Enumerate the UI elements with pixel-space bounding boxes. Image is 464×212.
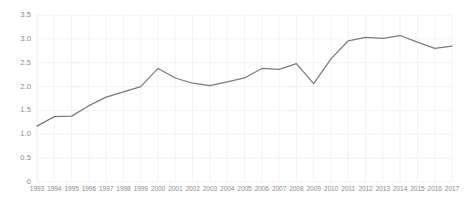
x-tick-label: 2001 — [168, 186, 182, 193]
y-tick-label: 3.0 — [20, 35, 31, 43]
x-tick-label: 2004 — [220, 186, 234, 193]
x-tick-label: 2013 — [376, 186, 390, 193]
x-tick-label: 2017 — [445, 186, 459, 193]
x-tick-label: 1998 — [116, 186, 130, 193]
plot-area — [37, 15, 452, 182]
x-tick-label: 2009 — [307, 186, 321, 193]
x-tick-label: 2000 — [151, 186, 165, 193]
x-tick-label: 2003 — [203, 186, 217, 193]
y-tick-label: 0.5 — [20, 154, 31, 162]
y-tick-label: 2.0 — [20, 83, 31, 91]
x-tick-label: 1997 — [99, 186, 113, 193]
x-tick-label: 2015 — [410, 186, 424, 193]
x-tick-label: 2014 — [393, 186, 407, 193]
x-tick-label: 2011 — [341, 186, 355, 193]
x-tick-label: 1995 — [64, 186, 78, 193]
x-tick-label: 2010 — [324, 186, 338, 193]
x-tick-label: 2006 — [255, 186, 269, 193]
line-chart: 00.51.01.52.02.53.03.5 19931994199519961… — [0, 0, 464, 212]
x-tick-label: 1996 — [82, 186, 96, 193]
series-line — [37, 36, 452, 127]
y-tick-label: 2.5 — [20, 59, 31, 67]
y-tick-label: 3.5 — [20, 11, 31, 19]
data-line-layer — [37, 15, 452, 182]
x-tick-label: 2012 — [358, 186, 372, 193]
x-tick-label: 2002 — [185, 186, 199, 193]
y-axis: 00.51.01.52.02.53.03.5 — [0, 0, 37, 212]
x-axis: 1993199419951996199719981999200020012002… — [37, 186, 452, 208]
x-tick-label: 2005 — [237, 186, 251, 193]
y-tick-label: 1.5 — [20, 107, 31, 115]
x-tick-label: 2007 — [272, 186, 286, 193]
y-tick-label: 1.0 — [20, 131, 31, 139]
x-tick-label: 1993 — [30, 186, 44, 193]
x-tick-label: 1994 — [47, 186, 61, 193]
x-tick-label: 2016 — [428, 186, 442, 193]
x-tick-label: 2008 — [289, 186, 303, 193]
x-tick-label: 1999 — [134, 186, 148, 193]
